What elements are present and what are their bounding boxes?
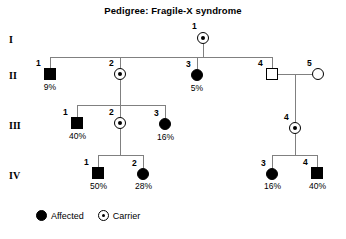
- connector-to-iii-1: [77, 105, 78, 117]
- legend: Affected Carrier: [36, 210, 140, 221]
- percent-label-ii-1: 9%: [36, 82, 64, 92]
- connector-to-iii-3: [165, 105, 166, 118]
- id-label-ii-1: 1: [36, 58, 41, 68]
- legend-entry-affected: Affected: [36, 210, 84, 221]
- percent-label-iii-1: 40%: [62, 131, 93, 141]
- sibship-line-generation-iv-left: [98, 155, 144, 156]
- id-label-ii-3: 3: [186, 59, 191, 69]
- legend-label-affected: Affected: [51, 211, 84, 221]
- individual-ii-1-affected-male[interactable]: [44, 68, 56, 80]
- connector-to-iv-3: [272, 155, 273, 168]
- id-label-iv-1: 1: [84, 157, 89, 167]
- individual-iii-2-carrier-female[interactable]: [114, 117, 126, 129]
- dotted-circle-icon: [98, 210, 109, 221]
- connector-iii2-to-sibship-iv: [120, 129, 121, 155]
- generation-label-ii: II: [9, 70, 17, 81]
- connector-to-iv-4: [317, 155, 318, 167]
- id-label-i-1: 1: [192, 21, 197, 31]
- individual-ii-2-carrier-female[interactable]: [114, 68, 126, 80]
- connector-to-ii-4: [272, 57, 273, 68]
- sibship-line-generation-iv-right: [272, 155, 318, 156]
- id-label-ii-2: 2: [109, 58, 114, 68]
- connector-to-iv-2: [143, 155, 144, 168]
- individual-i-1-carrier-female[interactable]: [197, 32, 209, 44]
- individual-ii-3-affected-female[interactable]: [191, 69, 203, 81]
- percent-label-iv-4: 40%: [302, 181, 333, 191]
- id-label-iv-2: 2: [132, 158, 137, 168]
- individual-ii-5-unaffected-female[interactable]: [312, 68, 324, 80]
- individual-iv-4-affected-male[interactable]: [311, 167, 323, 179]
- filled-circle-icon: [36, 210, 47, 221]
- connector-ii4-ii5-to-iii-4: [295, 74, 296, 122]
- connector-i1-to-sibship: [203, 44, 204, 57]
- id-label-ii-5: 5: [307, 58, 312, 68]
- percent-label-iv-3: 16%: [257, 181, 288, 191]
- connector-iii4-to-sibship-iv: [295, 134, 296, 155]
- connector-to-ii-3: [197, 57, 198, 69]
- sibship-line-generation-iii: [77, 105, 166, 106]
- connector-to-iv-1: [98, 155, 99, 167]
- id-label-iii-3: 3: [154, 108, 159, 118]
- id-label-iii-4: 4: [284, 112, 289, 122]
- id-label-iv-4: 4: [303, 157, 308, 167]
- connector-ii2-to-sibship-iii: [120, 80, 121, 105]
- pedigree-diagram: Pedigree: Fragile-X syndrome I II III IV…: [0, 0, 346, 239]
- id-label-iii-2: 2: [109, 107, 114, 117]
- individual-iii-4-carrier-female[interactable]: [289, 122, 301, 134]
- individual-iv-3-affected-female[interactable]: [266, 168, 278, 180]
- individual-iv-2-affected-female[interactable]: [137, 168, 149, 180]
- connector-to-iii-2: [120, 105, 121, 117]
- id-label-ii-4: 4: [258, 58, 263, 68]
- percent-label-ii-3: 5%: [184, 83, 210, 93]
- legend-entry-carrier: Carrier: [98, 210, 141, 221]
- connector-to-ii-1: [50, 57, 51, 68]
- generation-label-iii: III: [9, 120, 21, 131]
- generation-label-iv: IV: [9, 170, 20, 181]
- id-label-iii-1: 1: [63, 107, 68, 117]
- page-title: Pedigree: Fragile-X syndrome: [0, 5, 346, 16]
- percent-label-iv-2: 28%: [128, 181, 159, 191]
- individual-iii-1-affected-male[interactable]: [71, 117, 83, 129]
- legend-label-carrier: Carrier: [113, 211, 141, 221]
- individual-iii-3-affected-female[interactable]: [159, 118, 171, 130]
- generation-label-i: I: [9, 34, 13, 45]
- connector-to-ii-2: [120, 57, 121, 68]
- sibship-line-generation-ii: [50, 57, 273, 58]
- individual-ii-4-unaffected-male[interactable]: [266, 68, 278, 80]
- percent-label-iii-3: 16%: [150, 132, 181, 142]
- id-label-iv-3: 3: [261, 158, 266, 168]
- percent-label-iv-1: 50%: [83, 181, 114, 191]
- individual-iv-1-affected-male[interactable]: [92, 167, 104, 179]
